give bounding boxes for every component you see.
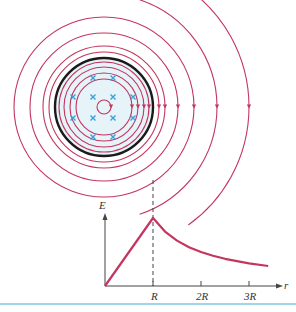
- y-axis-label: E: [99, 199, 106, 211]
- tick-label-3R: 3R: [244, 290, 256, 302]
- tick-label-R: R: [151, 290, 158, 302]
- x-axis-arrow-icon: [276, 284, 283, 289]
- field-direction-arrow-icon: [176, 105, 180, 109]
- bottom-rule: [0, 303, 296, 305]
- field-line-arc: [188, 0, 249, 225]
- tick-label-2R: 2R: [196, 290, 208, 302]
- x-axis-label: r: [284, 279, 288, 291]
- field-direction-arrow-icon: [192, 105, 196, 109]
- field-curve: [105, 218, 268, 286]
- y-axis-arrow-icon: [103, 213, 108, 220]
- field-direction-arrow-icon: [163, 105, 167, 109]
- cylinder-cross-section: [14, 0, 251, 225]
- field-diagram: [0, 0, 296, 312]
- field-direction-arrow-icon: [157, 105, 161, 109]
- field-vs-radius-graph: [103, 180, 284, 289]
- field-direction-arrow-icon: [215, 105, 219, 109]
- field-direction-arrow-icon: [247, 105, 251, 109]
